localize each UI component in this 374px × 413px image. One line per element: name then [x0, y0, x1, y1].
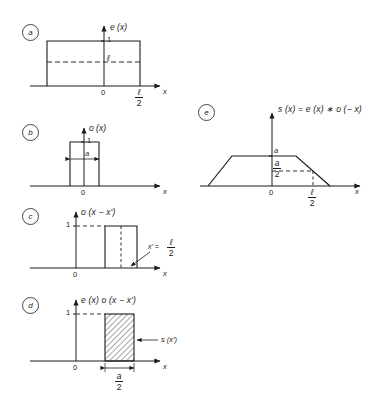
panel-c-marker-den: 2 — [168, 248, 175, 257]
panel-a-graphics — [30, 26, 160, 86]
panel-c-marker-value: ℓ 2 — [167, 238, 175, 257]
panel-e-half-num: a — [274, 159, 281, 168]
panel-e-peak-label: a — [274, 147, 278, 155]
panel-d-graphics — [30, 300, 160, 372]
panel-tag-d: d — [22, 297, 39, 314]
panel-a-right-tick-num: ℓ — [137, 88, 142, 97]
panel-c-graphics — [30, 212, 160, 268]
panel-a-origin: 0 — [101, 89, 105, 97]
panel-a-right-tick-den: 2 — [136, 98, 143, 107]
panel-c-xlabel: x — [163, 270, 167, 278]
panel-e-right-tick-den: 2 — [309, 198, 316, 207]
panel-e-origin: 0 — [269, 189, 273, 197]
panel-e-xlabel: x — [355, 188, 359, 196]
panel-d-width-value: a 2 — [115, 372, 123, 391]
panel-b-title: o (x) — [89, 124, 106, 133]
panel-d-title: e (x) o (x − x′) — [81, 296, 136, 305]
panel-tag-c: c — [22, 208, 39, 225]
panel-c-marker-label: x′ = — [148, 243, 159, 250]
panel-e-right-tick-num: ℓ — [310, 188, 315, 197]
panel-a-level-label: ℓ — [107, 54, 110, 63]
panel-a-xlabel: x — [163, 88, 167, 96]
panel-b-xlabel: x — [163, 188, 167, 196]
panel-e-half-den: 2 — [274, 169, 281, 178]
panel-e-half-value: a 2 — [273, 159, 281, 178]
panel-a-right-tick: ℓ 2 — [135, 88, 143, 107]
panel-b-origin: 0 — [81, 189, 85, 197]
panel-c-ylabel-1: 1 — [66, 221, 70, 229]
panel-d-ylabel-1: 1 — [66, 309, 70, 317]
panel-b-graphics — [30, 128, 160, 186]
panel-a-ylabel-1: 1 — [107, 36, 111, 44]
panel-d-area-label: s (x′) — [161, 336, 177, 344]
convolution-figure: a e (x) 1 ℓ 0 x ℓ 2 b o (x) 1 a 0 x c o … — [0, 0, 374, 413]
panel-e-right-tick: ℓ 2 — [308, 188, 316, 207]
panel-d-width-num: a — [116, 372, 123, 381]
panel-b-width-label: a — [85, 150, 89, 158]
panel-b-ylabel-1: 1 — [87, 137, 91, 145]
panel-e-title: s (x) = e (x) ∗ o (− x) — [278, 105, 362, 114]
panel-d-xlabel: x — [163, 363, 167, 371]
panel-d-origin: 0 — [73, 364, 77, 372]
panel-c-origin: 0 — [73, 271, 77, 279]
panel-d-width-den: 2 — [116, 382, 123, 391]
figure-vector-layer — [0, 0, 374, 413]
panel-tag-b: b — [22, 124, 39, 141]
panel-c-marker-num: ℓ — [169, 238, 174, 247]
panel-tag-a: a — [22, 24, 39, 41]
panel-a-title: e (x) — [110, 23, 127, 32]
panel-c-title: o (x − x′) — [81, 208, 116, 217]
panel-tag-e: e — [198, 104, 215, 121]
